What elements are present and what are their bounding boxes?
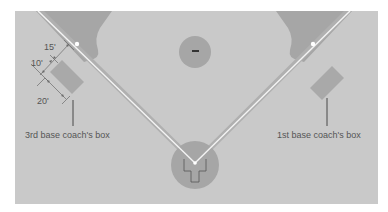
baseball-field-diagram: 15' 10' 20' 3rd base coach's box 1st bas… [0, 0, 388, 212]
first-base-coach-box-label: 1st base coach's box [277, 130, 361, 140]
pitchers-rubber [192, 50, 199, 52]
dimension-15ft: 15' [44, 42, 56, 52]
dimension-10ft: 10' [31, 58, 43, 68]
first-base [311, 42, 315, 46]
third-base-coach-box-label: 3rd base coach's box [25, 130, 110, 140]
home-plate [193, 161, 197, 165]
third-base [75, 42, 79, 46]
dimension-20ft: 20' [37, 96, 49, 106]
